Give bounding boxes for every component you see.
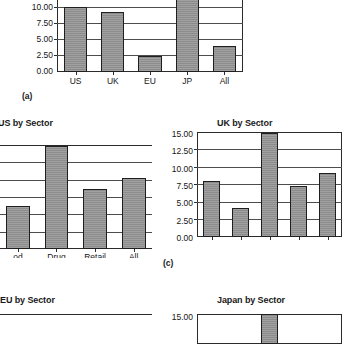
panel-b-title: US by Sector <box>0 118 53 128</box>
panel-c-slot-drug <box>226 132 255 237</box>
panel-c-bar-food <box>203 181 221 237</box>
panel-b-slot-all <box>114 145 152 249</box>
panel-a-ytick-5: 5.00 <box>36 34 53 44</box>
panel-c-xtick-food <box>212 237 213 240</box>
panel-c-bar-extra <box>319 173 337 237</box>
panel-d-frame <box>0 314 152 320</box>
panel-b-bar-food <box>6 206 30 249</box>
panel-a-xlabel-us: US <box>57 76 94 86</box>
panel-c-ytick-15: 15.00 <box>172 129 193 139</box>
panel-a-ytick-0: 0.00 <box>36 66 53 76</box>
panel-a-y-axis-labels: 10.00 7.50 5.00 2.50 0.00 <box>0 0 53 72</box>
panel-c-title: UK by Sector <box>217 118 272 128</box>
panel-e-slot-3 <box>284 314 313 344</box>
panel-b-bar-drug <box>45 146 69 249</box>
panel-c-ytick-12-5: 12.50 <box>172 146 193 156</box>
panel-a-xtick-us <box>76 72 77 75</box>
panel-c-plot-area <box>197 132 342 237</box>
panel-c-slot-all <box>284 132 313 237</box>
panel-b-bar-retail <box>83 189 107 249</box>
panel-c-y-axis-labels: 15.00 12.50 10.00 7.50 5.00 2.50 0.00 <box>150 132 193 246</box>
panel-c-ytick-7-5: 7.50 <box>176 181 193 191</box>
panel-a-slot-eu <box>131 0 168 72</box>
panel-e-title: Japan by Sector <box>217 295 285 305</box>
panel-b-xlabel-drug: Drug <box>37 252 76 258</box>
panel-a-ytick-2-5: 2.50 <box>36 50 53 60</box>
panel-b-bar-all <box>122 178 146 249</box>
panel-c-bar-drug <box>232 208 250 237</box>
panel-d-title: EU by Sector <box>0 295 55 305</box>
panel-b-x-axis-labels: od Drug Retail All <box>0 252 152 258</box>
panel-c-xtick-retail <box>270 237 271 240</box>
panel-e-slot-1 <box>226 314 255 344</box>
panel-a-xtick-all <box>224 72 225 75</box>
panel-a-xlabel-all: All <box>206 76 243 86</box>
panel-a-bar-jp <box>176 0 199 72</box>
panel-e-bars <box>197 314 342 344</box>
panel-d-plot-area <box>0 314 152 320</box>
panel-a-ytick-10: 10.00 <box>32 2 53 12</box>
panel-b-slot-retail <box>76 145 115 249</box>
panel-e-y-axis-labels: 15.00 <box>150 314 193 334</box>
panel-c-chart: UK by Sector 15.00 12.50 10.00 7.50 5.00… <box>155 118 335 278</box>
panel-a-xlabel-uk: UK <box>94 76 131 86</box>
panel-a-chart: 10.00 7.50 5.00 2.50 0.00 <box>0 0 250 92</box>
panel-a-xtick-jp <box>187 72 188 75</box>
panel-b-bars <box>0 145 152 249</box>
panel-a-xtick-uk <box>113 72 114 75</box>
panel-c-slot-food <box>197 132 226 237</box>
panel-b-chart: US by Sector <box>0 118 152 258</box>
panel-b-xlabel-retail: Retail <box>76 252 115 258</box>
panel-a-caption: (a) <box>22 91 32 101</box>
panel-a-ytick-7-5: 7.50 <box>36 18 53 28</box>
panel-e-slot-0 <box>197 314 226 344</box>
panel-b-xlabel-food: od <box>0 252 37 258</box>
panel-e-plot-area <box>197 314 342 344</box>
panel-e-ytick-15: 15.00 <box>172 312 193 322</box>
panel-b-slot-drug <box>37 145 76 249</box>
panel-a-slot-all <box>206 0 243 72</box>
panel-c-slot-extra <box>313 132 342 237</box>
panel-b-xlabel-all: All <box>114 252 152 258</box>
panel-c-ytick-0: 0.00 <box>176 233 193 243</box>
panel-b-slot-food <box>0 145 37 249</box>
panel-c-xtick-all <box>299 237 300 240</box>
panel-a-slot-uk <box>94 0 131 72</box>
panel-c-xtick-drug <box>241 237 242 240</box>
panel-a-xlabel-jp: JP <box>169 76 206 86</box>
panel-a-slot-jp <box>169 0 206 72</box>
panel-a-xlabel-eu: EU <box>131 76 168 86</box>
panel-e-chart: Japan by Sector 15.00 <box>155 295 335 320</box>
panel-a-bar-eu <box>138 56 161 72</box>
panel-a-bar-uk <box>101 12 124 72</box>
panel-c-bar-all <box>290 186 308 237</box>
panel-a-plot-area <box>57 0 243 72</box>
panel-e-slot-4 <box>313 314 342 344</box>
panel-c-xtick-extra <box>328 237 329 240</box>
panel-b-plot-area <box>0 145 152 249</box>
panel-a-bars <box>57 0 243 72</box>
panel-c-slot-retail <box>255 132 284 237</box>
panel-a-x-axis-labels: US UK EU JP All <box>57 76 243 86</box>
panel-e-bar-tall <box>261 314 279 344</box>
panel-e-slot-2 <box>255 314 284 344</box>
panel-a-bar-all <box>213 46 236 72</box>
panel-a-xtick-eu <box>150 72 151 75</box>
panel-c-bars <box>197 132 342 237</box>
panel-c-bar-retail <box>261 133 279 237</box>
panel-a-slot-us <box>57 0 94 72</box>
panel-a-bar-us <box>64 7 87 72</box>
panel-c-caption: (c) <box>163 258 173 268</box>
panel-d-chart: EU by Sector <box>0 295 152 320</box>
panel-c-ytick-2-5: 2.50 <box>176 216 193 226</box>
panel-c-ytick-10: 10.00 <box>172 164 193 174</box>
panel-c-ytick-5: 5.00 <box>176 198 193 208</box>
